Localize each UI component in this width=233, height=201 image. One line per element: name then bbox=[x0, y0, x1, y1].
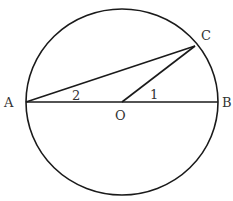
chord-ac bbox=[26, 46, 195, 102]
angle-label-1: 1 bbox=[150, 87, 158, 102]
geometry-diagram: A B O C 1 2 bbox=[0, 0, 233, 201]
radius-oc bbox=[122, 46, 195, 102]
point-label-c: C bbox=[201, 28, 211, 43]
point-label-a: A bbox=[3, 95, 14, 110]
angle-label-2: 2 bbox=[72, 88, 80, 103]
point-label-o: O bbox=[115, 108, 126, 123]
point-label-b: B bbox=[222, 95, 232, 110]
